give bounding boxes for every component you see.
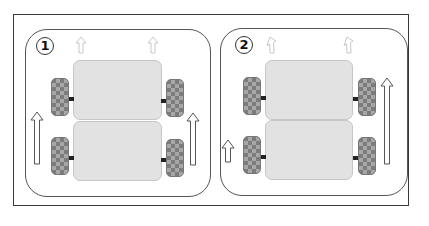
- arrow-turn-left-faint-icon: [265, 36, 279, 54]
- arrow-up-faint-icon: [147, 36, 159, 54]
- panel-number-badge-1: 1: [36, 37, 54, 55]
- axle: [261, 155, 266, 159]
- arrow-turn-left-faint-icon: [342, 36, 356, 54]
- axle: [161, 99, 166, 103]
- arrow-up-left-side-icon: [30, 111, 44, 165]
- axle: [261, 96, 266, 100]
- arrow-up-short-left-side-icon: [221, 139, 235, 163]
- panel-number-badge-2: 2: [235, 36, 253, 54]
- vehicle-body-front: [73, 60, 162, 120]
- wheel-front-right: [166, 79, 184, 117]
- axle: [69, 156, 74, 160]
- wheel-front-left: [51, 78, 69, 116]
- axle: [353, 97, 358, 101]
- wheel-rear-left: [51, 137, 69, 175]
- wheel-rear-right: [166, 139, 184, 177]
- arrow-up-long-right-side-icon: [380, 77, 394, 165]
- wheel-rear-left: [243, 136, 261, 174]
- vehicle-body-rear: [265, 120, 353, 180]
- wheel-front-right: [358, 78, 376, 116]
- arrow-up-right-side-icon: [186, 112, 200, 166]
- arrow-up-faint-icon: [75, 36, 87, 54]
- wheel-front-left: [243, 77, 261, 115]
- wheel-rear-right: [358, 137, 376, 175]
- vehicle-body-rear: [73, 121, 162, 181]
- axle: [161, 158, 166, 162]
- axle: [353, 156, 358, 160]
- axle: [69, 97, 74, 101]
- vehicle-body-front: [265, 60, 353, 120]
